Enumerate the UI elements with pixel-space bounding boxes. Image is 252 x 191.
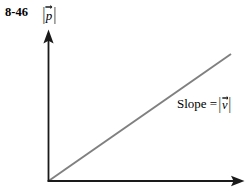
magnitude-bar-right: | (53, 7, 56, 22)
magnitude-bar-right: | (229, 96, 232, 111)
vector-p-core: p (45, 2, 53, 24)
slope-text-label: Slope = (177, 96, 217, 112)
vector-magnitude-v: | v| (218, 94, 231, 113)
vector-magnitude-p: | p| (42, 2, 57, 24)
vector-symbol-p: p (46, 8, 53, 23)
vector-symbol-v: v (222, 98, 228, 113)
slope-annotation: Slope = | v| (177, 94, 232, 113)
vector-v-core: v (222, 94, 229, 113)
y-axis-label: | p| (36, 2, 62, 26)
figure-container: 8-46 | p| Slope = | v| (0, 0, 252, 191)
data-line-momentum (49, 54, 232, 181)
